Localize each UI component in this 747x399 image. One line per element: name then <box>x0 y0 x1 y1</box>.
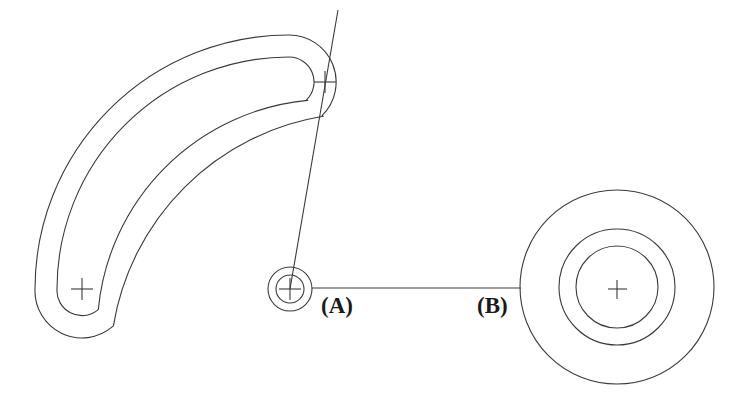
curved-slot-outer-contour <box>35 35 336 338</box>
cross-mark-bore-b <box>608 280 627 299</box>
cross-mark-slot-bottom <box>71 278 93 300</box>
label-a: (A) <box>321 294 353 317</box>
cross-mark-slot-top <box>314 71 336 93</box>
label-b: (B) <box>477 294 508 317</box>
drawing-canvas: (A) (B) <box>0 0 747 399</box>
angled-centre-line <box>290 10 338 289</box>
technical-drawing <box>0 0 747 399</box>
